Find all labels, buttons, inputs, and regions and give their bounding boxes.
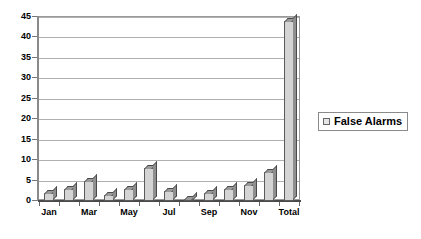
y-axis-label: 20 bbox=[3, 114, 31, 123]
bar-jul bbox=[164, 191, 174, 201]
y-axis-label: 35 bbox=[3, 53, 31, 62]
y-tick bbox=[32, 180, 37, 181]
x-tick bbox=[299, 202, 300, 206]
x-tick bbox=[99, 202, 100, 206]
bar-total bbox=[284, 21, 294, 201]
bar-apr bbox=[104, 195, 114, 201]
bar-side-face bbox=[53, 186, 57, 200]
x-tick bbox=[259, 202, 260, 206]
bar-nov bbox=[244, 185, 254, 201]
y-axis-label: 15 bbox=[3, 135, 31, 144]
y-axis-label: 45 bbox=[3, 12, 31, 21]
bar-dec bbox=[264, 172, 274, 201]
bar-jan bbox=[44, 193, 54, 201]
y-tick bbox=[32, 57, 37, 58]
chart-legend: False Alarms bbox=[318, 112, 408, 131]
bar-side-face bbox=[213, 186, 217, 200]
y-axis-label: 0 bbox=[3, 196, 31, 205]
y-tick bbox=[32, 36, 37, 37]
legend-swatch-icon bbox=[323, 118, 330, 125]
x-tick bbox=[179, 202, 180, 206]
bar-side-face bbox=[253, 178, 257, 200]
x-tick bbox=[279, 202, 280, 206]
y-tick bbox=[32, 77, 37, 78]
bar-side-face bbox=[233, 182, 237, 200]
bar-side-face bbox=[273, 165, 277, 200]
x-tick bbox=[59, 202, 60, 206]
x-axis-label-nov: Nov bbox=[229, 207, 269, 218]
y-axis-label: 10 bbox=[3, 155, 31, 164]
x-tick bbox=[39, 202, 40, 206]
bar-oct bbox=[224, 189, 234, 201]
bar-side-face bbox=[193, 192, 197, 200]
x-axis-label-jul: Jul bbox=[149, 207, 189, 218]
bar-side-face bbox=[173, 184, 177, 200]
x-tick bbox=[239, 202, 240, 206]
x-tick bbox=[199, 202, 200, 206]
legend-label: False Alarms bbox=[334, 115, 402, 127]
bar-aug bbox=[184, 199, 194, 201]
x-tick bbox=[139, 202, 140, 206]
x-tick bbox=[79, 202, 80, 206]
y-tick bbox=[32, 139, 37, 140]
y-axis-label: 5 bbox=[3, 176, 31, 185]
bar-side-face bbox=[93, 174, 97, 200]
x-axis-label-jan: Jan bbox=[29, 207, 69, 218]
bar-side-face bbox=[293, 14, 297, 200]
bar-side-face bbox=[113, 188, 117, 200]
bar-jun bbox=[144, 168, 154, 201]
x-axis-label-sep: Sep bbox=[189, 207, 229, 218]
x-tick bbox=[159, 202, 160, 206]
bar-sep bbox=[204, 193, 214, 201]
y-axis-label: 40 bbox=[3, 32, 31, 41]
bar-may bbox=[124, 189, 134, 201]
false-alarms-bar-chart: 45 40 35 30 25 20 15 10 5 0 JanMarMayJul… bbox=[0, 0, 421, 239]
x-tick bbox=[119, 202, 120, 206]
bars-layer bbox=[39, 17, 299, 201]
y-axis-labels: 45 40 35 30 25 20 15 10 5 0 bbox=[0, 0, 31, 239]
y-tick bbox=[32, 98, 37, 99]
x-axis-label-total: Total bbox=[269, 207, 309, 218]
bar-side-face bbox=[73, 182, 77, 200]
x-tick bbox=[219, 202, 220, 206]
x-axis-label-mar: Mar bbox=[69, 207, 109, 218]
y-tick bbox=[32, 159, 37, 160]
bar-mar bbox=[84, 181, 94, 201]
y-tick bbox=[32, 200, 37, 201]
bar-side-face bbox=[153, 161, 157, 200]
y-axis-label: 25 bbox=[3, 94, 31, 103]
x-axis-label-may: May bbox=[109, 207, 149, 218]
bar-feb bbox=[64, 189, 74, 201]
y-tick bbox=[32, 118, 37, 119]
y-tick bbox=[32, 16, 37, 17]
y-axis-label: 30 bbox=[3, 73, 31, 82]
bar-side-face bbox=[133, 182, 137, 200]
